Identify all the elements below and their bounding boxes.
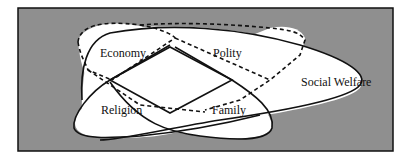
label-polity: Polity bbox=[213, 46, 242, 60]
label-religion: Religion bbox=[101, 103, 142, 117]
label-social-welfare: Social Welfare bbox=[301, 75, 371, 89]
label-economy: Economy bbox=[100, 46, 146, 60]
venn-diagram: Economy Polity Social Welfare Religion F… bbox=[0, 0, 407, 155]
label-family: Family bbox=[212, 103, 246, 117]
